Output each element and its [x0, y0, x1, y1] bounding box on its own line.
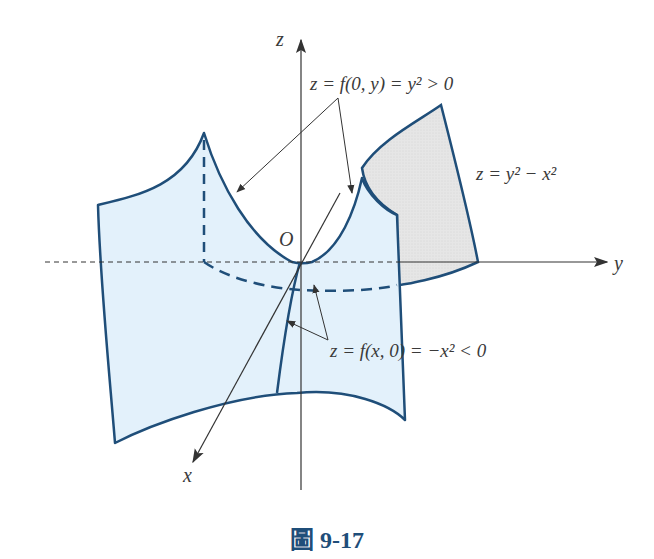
z-axis-label: z — [276, 28, 284, 51]
y-axis-label: y — [614, 252, 623, 275]
origin-label: O — [279, 228, 293, 251]
surface-equation-label: z = y² − x² — [476, 163, 556, 185]
pointer-yz-right — [338, 98, 352, 193]
x-axis-label: x — [183, 464, 192, 487]
figure-caption: 圖 9-17 — [0, 520, 654, 555]
saddle-surface — [98, 133, 405, 443]
yz-trace-annotation: z = f(0, y) = y² > 0 — [310, 73, 453, 95]
pointer-yz-left — [237, 98, 338, 192]
xz-trace-annotation: z = f(x, 0) = −x² < 0 — [330, 340, 486, 362]
